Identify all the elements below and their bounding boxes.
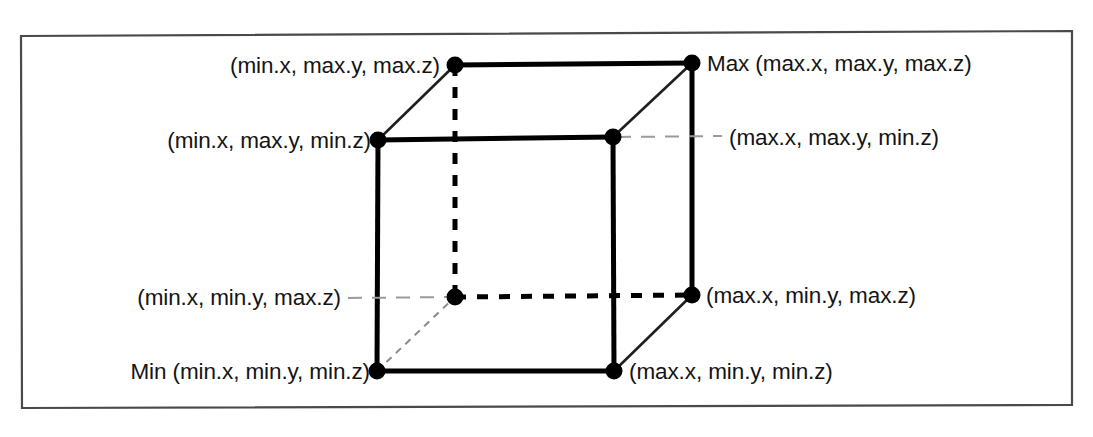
vertex-dot-front-top-left [370,132,387,149]
edge-front-left-vertical [377,140,378,371]
edge-front-top-horizontal [378,137,613,140]
vertex-dot-front-top-right [605,129,622,146]
figure-border [21,31,1072,408]
edge-top-right-diagonal [613,63,692,137]
edge-back-bottom-horizontal [455,295,692,297]
vertex-dot-back-bottom-left [447,289,464,306]
edge-front-right-vertical [613,137,614,371]
vertex-dot-front-bottom-left [369,363,386,380]
leader-line-front-top-right [617,136,722,137]
vertex-dot-back-top-right [684,55,701,72]
vertex-label-back-top-left: (min.x, max.y, max.z) [230,55,440,78]
vertex-dot-back-bottom-right [684,287,701,304]
vertex-label-back-bottom-right: (max.x, min.y, max.z) [706,285,916,308]
bounding-box-figure: (min.x, max.y, max.z) Max (max.x, max.y,… [0,0,1093,437]
leader-line-back-bottom-left [348,297,452,298]
vertex-dot-back-top-left [447,57,464,74]
vertex-label-front-bottom-left: Min (min.x, min.y, min.z) [130,361,370,384]
vertex-dot-front-bottom-right [606,363,623,380]
vertex-label-front-top-right: (max.x, max.y, min.z) [729,127,939,150]
edge-top-back-horizontal [455,63,692,65]
vertex-label-back-top-right: Max (max.x, max.y, max.z) [707,53,972,76]
vertex-label-back-bottom-left: (min.x, min.y, max.z) [137,287,341,310]
vertex-label-front-bottom-right: (max.x, min.y, min.z) [629,361,833,384]
edge-bottom-left-diagonal [377,297,455,371]
vertex-label-front-top-left: (min.x, max.y, min.z) [167,130,371,153]
